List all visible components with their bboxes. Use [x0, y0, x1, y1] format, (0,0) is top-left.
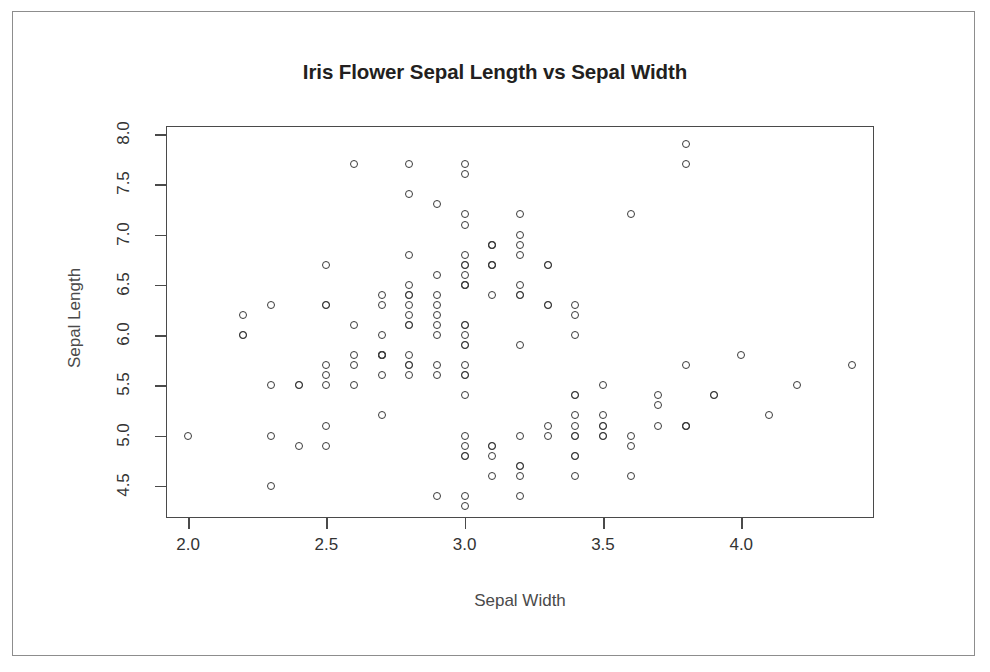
data-point — [461, 361, 469, 369]
scatter-points-layer — [166, 126, 874, 518]
data-point — [627, 442, 635, 450]
page-title: Iris Flower Sepal Length vs Sepal Width — [0, 60, 990, 84]
y-axis-tick-label: 5.5 — [114, 364, 134, 404]
data-point — [433, 371, 441, 379]
data-point — [267, 381, 275, 389]
y-axis-tick-label: 7.0 — [114, 214, 134, 254]
data-point — [433, 200, 441, 208]
data-point — [682, 160, 690, 168]
data-point — [599, 432, 607, 440]
data-point — [571, 391, 579, 399]
data-point — [488, 442, 496, 450]
data-point — [378, 291, 386, 299]
data-point — [544, 301, 552, 309]
data-point — [516, 472, 524, 480]
data-point — [461, 391, 469, 399]
data-point — [461, 261, 469, 269]
data-point — [516, 462, 524, 470]
data-point — [322, 371, 330, 379]
y-axis-tick-label: 6.0 — [114, 314, 134, 354]
data-point — [544, 432, 552, 440]
data-point — [378, 371, 386, 379]
y-axis-tick — [155, 285, 166, 287]
data-point — [433, 301, 441, 309]
data-point — [488, 241, 496, 249]
data-point — [848, 361, 856, 369]
data-point — [350, 381, 358, 389]
data-point — [239, 331, 247, 339]
data-point — [599, 411, 607, 419]
data-point — [461, 341, 469, 349]
data-point — [793, 381, 801, 389]
data-point — [461, 442, 469, 450]
data-point — [599, 381, 607, 389]
data-point — [516, 251, 524, 259]
data-point — [516, 210, 524, 218]
data-point — [654, 422, 662, 430]
data-point — [461, 210, 469, 218]
x-axis-tick-label: 3.0 — [435, 535, 495, 555]
y-axis-tick-label: 8.0 — [114, 113, 134, 153]
data-point — [350, 361, 358, 369]
data-point — [571, 452, 579, 460]
data-point — [322, 361, 330, 369]
data-point — [378, 331, 386, 339]
data-point — [433, 271, 441, 279]
data-point — [322, 261, 330, 269]
data-point — [488, 291, 496, 299]
data-point — [571, 311, 579, 319]
data-point — [322, 381, 330, 389]
data-point — [461, 371, 469, 379]
data-point — [461, 251, 469, 259]
data-point — [405, 291, 413, 299]
data-point — [461, 271, 469, 279]
data-point — [461, 170, 469, 178]
y-axis-tick — [155, 134, 166, 136]
data-point — [350, 160, 358, 168]
y-axis-tick — [155, 436, 166, 438]
data-point — [682, 361, 690, 369]
data-point — [488, 472, 496, 480]
data-point — [461, 452, 469, 460]
data-point — [571, 472, 579, 480]
data-point — [710, 391, 718, 399]
data-point — [682, 140, 690, 148]
data-point — [350, 351, 358, 359]
data-point — [184, 432, 192, 440]
data-point — [627, 210, 635, 218]
y-axis-tick-label: 5.0 — [114, 415, 134, 455]
data-point — [461, 502, 469, 510]
data-point — [516, 432, 524, 440]
data-point — [350, 321, 358, 329]
y-axis-title: Sepal Length — [65, 218, 85, 418]
x-axis-tick — [741, 518, 743, 529]
data-point — [627, 432, 635, 440]
y-axis-tick — [155, 385, 166, 387]
data-point — [322, 301, 330, 309]
data-point — [405, 351, 413, 359]
data-point — [571, 432, 579, 440]
chart-page: Iris Flower Sepal Length vs Sepal Width … — [0, 0, 990, 672]
data-point — [405, 361, 413, 369]
data-point — [461, 160, 469, 168]
data-point — [654, 391, 662, 399]
data-point — [599, 422, 607, 430]
data-point — [239, 311, 247, 319]
y-axis-tick — [155, 184, 166, 186]
x-axis-tick — [465, 518, 467, 529]
data-point — [378, 411, 386, 419]
data-point — [433, 291, 441, 299]
data-point — [405, 311, 413, 319]
data-point — [516, 231, 524, 239]
data-point — [405, 301, 413, 309]
data-point — [267, 482, 275, 490]
data-point — [682, 422, 690, 430]
data-point — [737, 351, 745, 359]
y-axis-tick-label: 7.5 — [114, 163, 134, 203]
data-point — [433, 331, 441, 339]
data-point — [405, 281, 413, 289]
data-point — [627, 472, 635, 480]
data-point — [571, 411, 579, 419]
data-point — [571, 422, 579, 430]
x-axis-title: Sepal Width — [166, 591, 874, 611]
